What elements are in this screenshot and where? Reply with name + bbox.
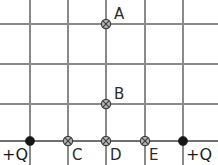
field-point-c[interactable] xyxy=(63,136,72,145)
diagram-canvas: ABCDE+Q+Q xyxy=(0,0,218,165)
physics-field-diagram: ABCDE+Q+Q xyxy=(0,0,218,165)
field-point-label-c: C xyxy=(72,146,82,164)
field-point-label-d: D xyxy=(110,146,122,164)
charge-label-right: +Q xyxy=(186,145,212,164)
field-point-b[interactable] xyxy=(101,99,110,108)
grid-horizontal-lines xyxy=(0,24,218,104)
field-point-label-a: A xyxy=(114,5,125,23)
field-point-label-e: E xyxy=(149,146,158,164)
charge-label-left: +Q xyxy=(2,145,28,164)
field-point-d[interactable] xyxy=(101,136,110,145)
field-point-a[interactable] xyxy=(101,19,110,28)
field-point-label-b: B xyxy=(114,85,124,103)
field-point-e[interactable] xyxy=(140,136,149,145)
